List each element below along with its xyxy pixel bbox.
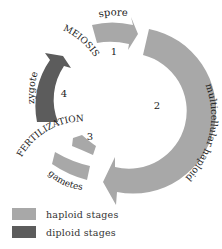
legend-label-diploid: diploid stages <box>46 227 116 238</box>
stage-number-1: 1 <box>111 46 117 57</box>
legend-item-diploid: diploid stages <box>12 226 116 238</box>
spore-label: spore <box>97 6 128 19</box>
haploid-swatch <box>12 208 36 220</box>
multicellular-haploid-arc <box>103 29 216 205</box>
legend-item-haploid: haploid stages <box>12 208 119 220</box>
stage-number-4: 4 <box>61 88 67 99</box>
diploid-swatch <box>12 226 36 238</box>
stage-number-3: 3 <box>87 131 93 142</box>
stage-number-2: 2 <box>154 100 160 111</box>
legend-label-haploid: haploid stages <box>46 209 119 220</box>
